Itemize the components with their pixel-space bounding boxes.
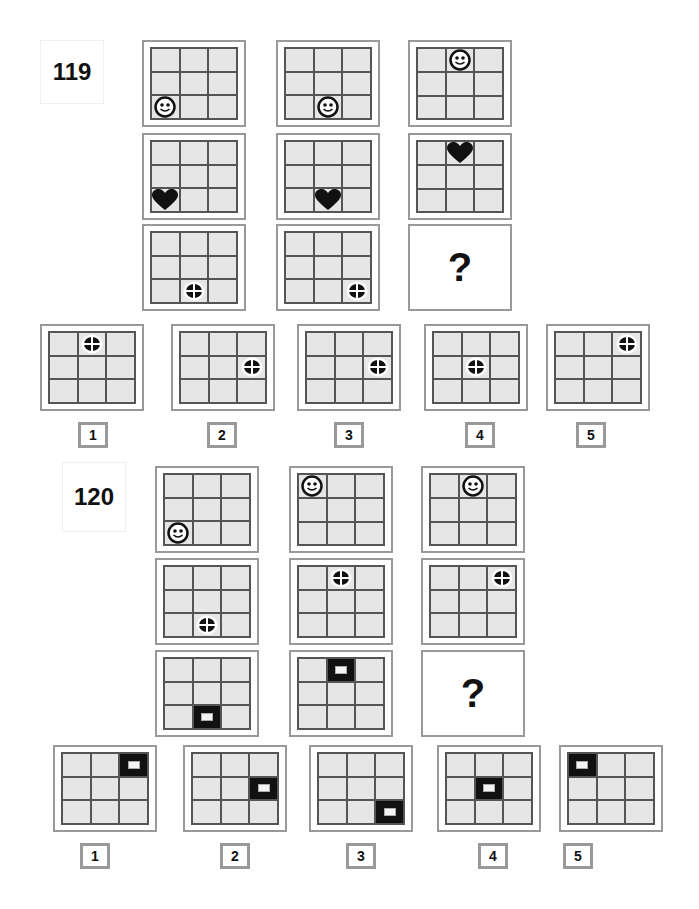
- grid-cell: [315, 257, 342, 279]
- grid-3x3: [429, 473, 517, 546]
- matrix-cell: [155, 558, 259, 645]
- grid-cell: [447, 49, 474, 71]
- smiley-icon: [449, 49, 471, 71]
- grid-cell: [613, 380, 640, 402]
- grid-cell: [50, 380, 77, 402]
- grid-3x3: [445, 752, 533, 825]
- option-number-label[interactable]: 5: [563, 843, 593, 869]
- grid-cell: [343, 142, 370, 164]
- grid-cell: [343, 166, 370, 188]
- grid-cell: [598, 754, 625, 776]
- smiley-icon: [317, 96, 339, 118]
- grid-cell: [460, 591, 487, 613]
- answer-option[interactable]: [171, 324, 275, 411]
- question-mark: ?: [423, 652, 523, 735]
- grid-cell: [431, 499, 458, 521]
- grid-cell: [488, 475, 515, 497]
- grid-cell: [107, 357, 134, 379]
- option-number-label[interactable]: 1: [80, 843, 110, 869]
- matrix-cell: [155, 466, 259, 553]
- grid-cell: [238, 357, 265, 379]
- option-number-label[interactable]: 3: [334, 422, 364, 448]
- grid-3x3: [416, 47, 504, 120]
- grid-cell: [250, 801, 277, 823]
- grid-cell: [585, 380, 612, 402]
- grid-cell: [315, 189, 342, 211]
- grid-cell: [181, 333, 208, 355]
- answer-option[interactable]: [559, 745, 663, 832]
- grid-cell: [165, 567, 192, 589]
- grid-cell: [460, 499, 487, 521]
- grid-cell: [356, 567, 383, 589]
- grid-cell: [286, 280, 313, 302]
- grid-cell: [626, 754, 653, 776]
- grid-cell: [194, 475, 221, 497]
- grid-cell: [165, 591, 192, 613]
- grid-cell: [447, 142, 474, 164]
- grid-cell: [194, 591, 221, 613]
- grid-cell: [418, 49, 445, 71]
- grid-cell: [315, 73, 342, 95]
- option-number-label[interactable]: 2: [207, 422, 237, 448]
- grid-cell: [286, 49, 313, 71]
- answer-option[interactable]: [437, 745, 541, 832]
- crosshair-icon: [367, 357, 389, 377]
- grid-cell: [152, 166, 179, 188]
- grid-cell: [356, 591, 383, 613]
- answer-option[interactable]: [40, 324, 144, 411]
- matrix-cell: [276, 224, 380, 311]
- option-number-label[interactable]: 1: [78, 422, 108, 448]
- grid-cell: [299, 523, 326, 545]
- answer-option[interactable]: [297, 324, 401, 411]
- grid-cell: [79, 333, 106, 355]
- matrix-cell: [276, 133, 380, 220]
- option-number-label[interactable]: 2: [220, 843, 250, 869]
- grid-cell: [286, 166, 313, 188]
- grid-3x3: [191, 752, 279, 825]
- grid-cell: [181, 96, 208, 118]
- grid-cell: [107, 380, 134, 402]
- grid-cell: [598, 801, 625, 823]
- grid-cell: [475, 142, 502, 164]
- grid-cell: [222, 659, 249, 681]
- grid-cell: [299, 475, 326, 497]
- grid-3x3: [297, 657, 385, 730]
- grid-cell: [63, 754, 90, 776]
- answer-option[interactable]: [424, 324, 528, 411]
- option-number-label[interactable]: 4: [465, 422, 495, 448]
- grid-cell: [209, 280, 236, 302]
- option-number-label[interactable]: 5: [576, 422, 606, 448]
- grid-cell: [447, 754, 474, 776]
- grid-cell: [613, 357, 640, 379]
- grid-cell: [181, 49, 208, 71]
- grid-cell: [348, 754, 375, 776]
- grid-cell: [222, 683, 249, 705]
- grid-cell: [463, 357, 490, 379]
- grid-cell: [488, 523, 515, 545]
- grid-cell: [222, 778, 249, 800]
- answer-option[interactable]: [309, 745, 413, 832]
- grid-cell: [165, 614, 192, 636]
- grid-cell: [328, 499, 355, 521]
- answer-option[interactable]: [53, 745, 157, 832]
- grid-cell: [209, 96, 236, 118]
- answer-option[interactable]: [546, 324, 650, 411]
- grid-cell: [120, 778, 147, 800]
- crosshair-icon: [465, 357, 487, 377]
- grid-cell: [222, 567, 249, 589]
- grid-cell: [475, 73, 502, 95]
- grid-3x3: [150, 231, 238, 304]
- grid-cell: [165, 475, 192, 497]
- option-number-label[interactable]: 3: [346, 843, 376, 869]
- matrix-cell: [289, 558, 393, 645]
- grid-cell: [488, 614, 515, 636]
- option-number-label[interactable]: 4: [478, 843, 508, 869]
- crosshair-icon: [196, 615, 218, 635]
- grid-cell: [356, 683, 383, 705]
- grid-cell: [315, 142, 342, 164]
- answer-option[interactable]: [183, 745, 287, 832]
- grid-cell: [152, 189, 179, 211]
- grid-cell: [299, 683, 326, 705]
- grid-cell: [376, 801, 403, 823]
- grid-cell: [475, 166, 502, 188]
